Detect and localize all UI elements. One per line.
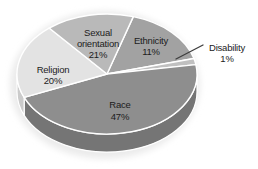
slice-label-religion: Religion bbox=[37, 64, 70, 75]
slice-label-ethnicity-value: 11% bbox=[142, 46, 160, 57]
slice-label-race-value: 47% bbox=[111, 111, 130, 122]
slice-label-sexual-orientation: orientation bbox=[77, 38, 119, 49]
slice-label-sexual-orientation-value: 21% bbox=[89, 49, 108, 60]
slice-label-disability-value: 1% bbox=[220, 53, 234, 64]
slice-label-religion-value: 20% bbox=[44, 75, 63, 86]
slice-label-ethnicity: Ethnicity bbox=[134, 35, 169, 46]
slice-label-sexual-orientation: Sexual bbox=[84, 27, 112, 38]
pie-chart-svg: Sexualorientation21%Ethnicity11%Disabili… bbox=[0, 0, 258, 169]
slice-label-disability: Disability bbox=[209, 42, 245, 53]
slice-label-race: Race bbox=[109, 99, 130, 110]
diversity-pie-chart: Sexualorientation21%Ethnicity11%Disabili… bbox=[0, 0, 258, 169]
